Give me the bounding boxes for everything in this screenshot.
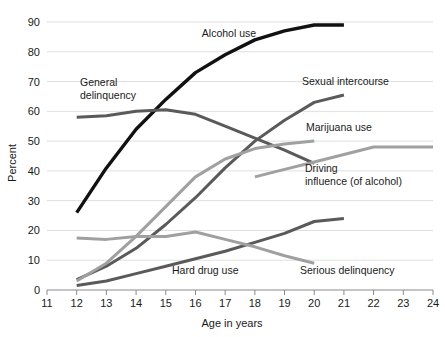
x-tick-label: 20: [308, 297, 320, 309]
y-tick-label: 40: [28, 165, 40, 177]
series-label: delinquency: [80, 89, 137, 101]
y-axis-tick-labels: 0102030405060708090: [28, 16, 40, 296]
y-tick-label: 60: [28, 105, 40, 117]
y-axis-title: Percent: [6, 144, 18, 182]
line-chart: 0102030405060708090 11121314151617181920…: [0, 0, 445, 337]
y-tick-label: 80: [28, 46, 40, 58]
y-tick-label: 70: [28, 76, 40, 88]
x-tick-label: 21: [338, 297, 350, 309]
x-axis-tick-labels: 1112131415161718192021222324: [41, 297, 439, 309]
y-tick-label: 0: [34, 284, 40, 296]
series-label: Alcohol use: [202, 27, 256, 39]
y-tick-label: 10: [28, 254, 40, 266]
series-line: [255, 147, 433, 177]
series-label: influence (of alcohol): [305, 175, 402, 187]
series-label: Serious delinquency: [300, 264, 395, 276]
x-tick-label: 19: [278, 297, 290, 309]
x-tick-label: 15: [160, 297, 172, 309]
y-tick-label: 90: [28, 16, 40, 28]
x-tick-label: 12: [71, 297, 83, 309]
series-label: Sexual intercourse: [302, 75, 389, 87]
x-axis-title: Age in years: [201, 317, 263, 329]
x-tick-label: 16: [189, 297, 201, 309]
axis-lines: [47, 290, 433, 295]
x-tick-label: 17: [219, 297, 231, 309]
series-label: Hard drug use: [172, 264, 239, 276]
series-label: Driving: [305, 162, 338, 174]
x-tick-label: 11: [41, 297, 52, 309]
chart-canvas: 0102030405060708090 11121314151617181920…: [0, 0, 445, 337]
x-tick-label: 24: [427, 297, 439, 309]
y-tick-label: 50: [28, 135, 40, 147]
x-tick-label: 14: [130, 297, 142, 309]
y-tick-label: 30: [28, 195, 40, 207]
gridlines: [47, 22, 433, 260]
x-tick-label: 18: [249, 297, 261, 309]
y-tick-label: 20: [28, 224, 40, 236]
x-tick-label: 13: [100, 297, 112, 309]
data-series: [77, 25, 433, 286]
series-line: [77, 110, 315, 164]
series-label: General: [80, 76, 117, 88]
x-tick-label: 23: [397, 297, 409, 309]
x-tick-label: 22: [367, 297, 379, 309]
series-label: Marijuana use: [306, 121, 372, 133]
